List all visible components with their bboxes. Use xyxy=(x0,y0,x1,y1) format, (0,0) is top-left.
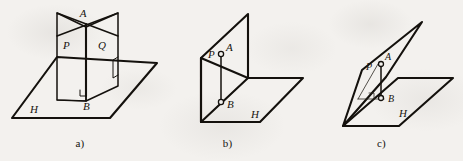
label-plane-q: Q xyxy=(98,39,106,51)
panel-c: A P B H c) xyxy=(300,0,463,161)
figure-canvas: A P Q B H a) xyxy=(0,0,463,161)
point-marker-b-b xyxy=(218,99,223,104)
label-b-foot: B xyxy=(83,100,90,112)
panel-a-diagram: A P Q B H xyxy=(0,0,160,140)
panel-b-diagram: A P B H xyxy=(150,0,305,140)
label-plane-h-b: H xyxy=(250,108,260,120)
label-plane-p: P xyxy=(62,39,70,51)
point-marker-a-c xyxy=(379,62,384,67)
label-b-foot-b: B xyxy=(227,98,234,110)
panel-b: A P B H b) xyxy=(150,0,305,161)
intersection-line-c xyxy=(343,77,386,126)
label-plane-p-c: P xyxy=(365,61,372,72)
label-a-apex: A xyxy=(79,7,87,19)
panel-c-diagram: A P B H xyxy=(300,0,463,140)
label-a-apex-b: A xyxy=(225,41,233,53)
caption-b: b) xyxy=(150,137,305,149)
label-b-foot-c: B xyxy=(388,93,394,104)
caption-a: a) xyxy=(0,137,160,149)
plane-cross-edges xyxy=(57,13,118,36)
label-plane-h-a: H xyxy=(29,103,39,115)
label-plane-h-c: H xyxy=(398,107,408,119)
label-a-apex-c: A xyxy=(384,51,392,62)
segment-ab-b xyxy=(218,51,223,104)
plane-p-outline-c xyxy=(343,22,422,126)
caption-c: c) xyxy=(300,137,463,149)
point-marker-a-b xyxy=(218,51,223,56)
plane-h-outline-c xyxy=(343,78,453,126)
panel-a: A P Q B H a) xyxy=(0,0,160,161)
point-marker-b-c xyxy=(379,96,384,101)
intersection-line-b xyxy=(201,78,248,122)
label-plane-p-b: P xyxy=(207,48,215,60)
